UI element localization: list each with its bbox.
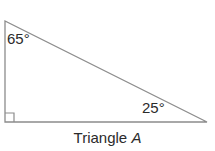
angle-label-bottom-right: 25° (142, 100, 165, 115)
caption-prefix: Triangle (74, 129, 132, 146)
angle-label-top-left: 65° (7, 31, 30, 46)
caption-triangle-name: A (131, 129, 141, 146)
triangle-figure: 65° 25° Triangle A (0, 0, 215, 151)
right-angle-marker-icon (5, 113, 14, 122)
triangle-outline (5, 21, 207, 122)
figure-caption: Triangle A (0, 129, 215, 146)
